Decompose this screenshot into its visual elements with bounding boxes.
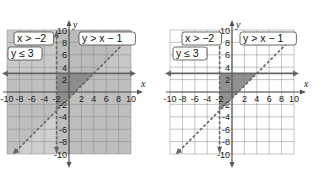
x-tick-label: -8 [178,94,186,104]
y-tick-label: 8 [62,38,67,48]
y-axis-arrow-down-icon [67,162,72,168]
y-tick-label: -10 [54,150,67,160]
y-tick-label: 6 [225,50,230,60]
inequality-label: y ≤ 3 [11,47,34,59]
y-axis-arrow-icon [230,20,235,26]
y-tick-label: -6 [222,125,230,135]
inequality-label: x > −2 [17,32,46,44]
x-tick-label: -10 [0,94,13,104]
y-tick-label: -4 [59,112,67,122]
y-tick-label: -2 [222,100,230,110]
x-axis-label: x [303,78,309,89]
x-axis-arrow-icon [137,90,143,95]
y-tick-label: -10 [217,150,230,160]
x-tick-label: 8 [116,94,121,104]
y-tick-label: 4 [62,63,67,73]
x-tick-label: -4 [40,94,48,104]
x-tick-label: -6 [28,94,36,104]
inequality-label: x > −2 [185,32,214,44]
y-tick-label: -2 [59,100,67,110]
x-tick-label: 8 [279,94,284,104]
boundary-arrow-icon [130,70,136,76]
x-axis-label: x [140,78,146,89]
x-tick-label: -6 [191,94,199,104]
y-axis-label: y [72,19,78,30]
graph-right: -10-8-6-4-2246810108642-2-4-6-8-10xyx > … [163,19,309,168]
boundary-arrow-icon [293,70,299,76]
boundary-arrow-icon [165,70,171,76]
x-tick-label: -8 [15,94,23,104]
boundary-arrow-icon [2,70,8,76]
inequality-label: y > x − 1 [82,32,122,44]
y-tick-label: -4 [222,112,230,122]
y-tick-label: -8 [59,137,67,147]
y-tick-label: -8 [222,137,230,147]
y-tick-label: 10 [57,26,67,36]
graph-left: -10-8-6-4-2246810108642-2-4-6-8-10xyx > … [0,19,146,168]
inequality-label: y ≤ 3 [176,47,199,59]
y-axis-label: y [235,19,241,30]
inequality-graphs: -10-8-6-4-2246810108642-2-4-6-8-10xyx > … [0,0,322,174]
inequality-label: y > x − 1 [243,32,283,44]
x-tick-label: 6 [267,94,272,104]
y-axis-arrow-icon [67,20,72,26]
y-tick-label: -6 [59,125,67,135]
x-tick-label: 2 [79,94,84,104]
x-axis-arrow-icon [300,90,306,95]
x-tick-label: 4 [254,94,259,104]
y-tick-label: 8 [225,38,230,48]
y-tick-label: 2 [225,75,230,85]
x-tick-label: -10 [163,94,176,104]
y-tick-label: 2 [62,75,67,85]
x-tick-label: 6 [104,94,109,104]
y-tick-label: 6 [62,50,67,60]
x-tick-label: 10 [126,94,136,104]
y-tick-label: 4 [225,63,230,73]
y-axis-arrow-down-icon [230,162,235,168]
x-tick-label: 10 [289,94,299,104]
x-tick-label: 4 [91,94,96,104]
x-tick-label: 2 [242,94,247,104]
x-tick-label: -4 [203,94,211,104]
